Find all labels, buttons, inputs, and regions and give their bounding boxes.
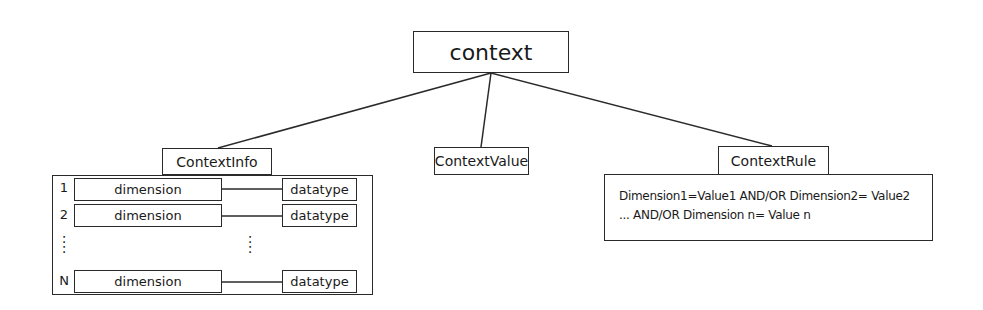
rule-line: Dimension1=Value1 AND/OR Dimension2= Val… [619,187,932,206]
context-root-label: context [450,40,533,65]
row-index: 1 [58,180,70,195]
contextvalue-label: ContextValue [435,153,528,169]
vertical-ellipsis: :: [245,233,255,253]
datatype-label: datatype [290,182,348,197]
contextinfo-label: ContextInfo [176,154,257,170]
context-root-node: context [413,31,569,73]
datatype-box: datatype [282,270,357,293]
rule-line: ... AND/OR Dimension n= Value n [619,206,932,225]
datatype-box: datatype [282,178,357,201]
datatype-label: datatype [290,274,348,289]
contextrule-node: ContextRule [718,146,829,175]
contextinfo-node: ContextInfo [162,148,272,175]
row-index: 2 [58,207,70,222]
dimension-label: dimension [114,182,181,197]
vertical-ellipsis: :: [59,233,69,253]
row-index: N [58,273,70,288]
dimension-box: dimension [74,270,222,293]
dimension-box: dimension [74,204,222,227]
dimension-box: dimension [74,178,222,201]
dimension-label: dimension [114,208,181,223]
datatype-box: datatype [282,204,357,227]
contextvalue-node: ContextValue [434,147,529,175]
datatype-label: datatype [290,208,348,223]
dimension-label: dimension [114,274,181,289]
contextrule-expression-box: Dimension1=Value1 AND/OR Dimension2= Val… [604,174,933,241]
contextrule-label: ContextRule [731,153,816,169]
